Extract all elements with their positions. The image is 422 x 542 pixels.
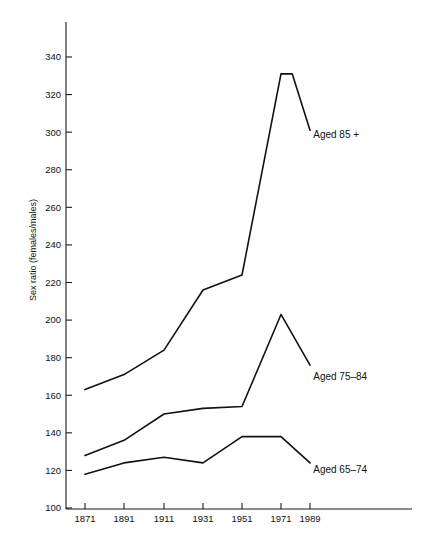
y-axis-title: Sex ratio (females/males) — [28, 199, 38, 301]
series-line-2 — [85, 314, 310, 455]
x-tick-label: 1951 — [231, 513, 252, 524]
data-series-lines — [85, 74, 310, 474]
x-tick-label: 1911 — [154, 513, 174, 524]
y-tick-label: 240 — [45, 239, 61, 250]
x-tick-label: 1971 — [270, 513, 291, 524]
y-tick-label: 220 — [45, 277, 61, 288]
y-tick-labels: 100120140160180200220240260280300320340 — [45, 51, 61, 513]
x-tick-label: 1931 — [192, 513, 213, 524]
y-tick-label: 100 — [45, 502, 61, 513]
x-axis: 1871189119111931195119711989 — [66, 503, 412, 524]
y-tick-label: 320 — [45, 89, 61, 100]
x-tick-labels: 1871189119111931195119711989 — [74, 513, 320, 524]
y-tick-label: 200 — [45, 314, 61, 325]
series-annotation-1: Aged 85 + — [313, 129, 359, 140]
y-tick-marks — [66, 57, 72, 508]
y-tick-label: 280 — [45, 164, 61, 175]
series-annotation-2: Aged 75–84 — [313, 371, 367, 382]
y-tick-label: 140 — [45, 427, 61, 438]
y-tick-label: 260 — [45, 202, 61, 213]
data-series-labels: Aged 85 +Aged 75–84Aged 65–74 — [313, 129, 367, 474]
sex-ratio-line-chart: 100120140160180200220240260280300320340 … — [0, 0, 422, 542]
series-line-1 — [85, 74, 310, 390]
chart-canvas: 100120140160180200220240260280300320340 … — [0, 0, 422, 542]
x-tick-label: 1871 — [74, 513, 95, 524]
y-tick-label: 180 — [45, 352, 61, 363]
x-tick-marks — [85, 503, 310, 509]
x-tick-label: 1891 — [113, 513, 134, 524]
y-tick-label: 120 — [45, 465, 61, 476]
x-tick-label: 1989 — [299, 513, 320, 524]
y-axis: 100120140160180200220240260280300320340 … — [28, 22, 72, 513]
y-tick-label: 160 — [45, 390, 61, 401]
series-annotation-3: Aged 65–74 — [313, 464, 367, 475]
y-tick-label: 300 — [45, 127, 61, 138]
y-tick-label: 340 — [45, 51, 61, 62]
